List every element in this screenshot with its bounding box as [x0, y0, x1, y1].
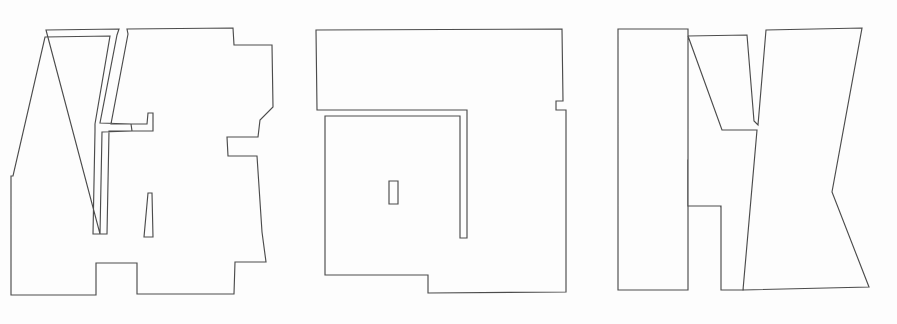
glyph-1-outline [11, 28, 273, 295]
glyph-group-2 [316, 29, 566, 293]
glyph-2-inner-mouth [389, 181, 398, 204]
glyph-2-outline [316, 29, 566, 293]
glyph-outline-svg [0, 0, 897, 324]
glyph-group-3 [618, 28, 869, 290]
glyph-group-1 [11, 28, 273, 295]
figure-canvas: Three outlined CJK glyph shapes Line-art… [0, 0, 897, 324]
